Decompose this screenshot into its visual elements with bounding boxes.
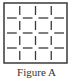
grid-figure (0, 0, 73, 66)
figure-caption: Figure A (0, 66, 73, 78)
inner-grid-dashes (7, 6, 64, 60)
